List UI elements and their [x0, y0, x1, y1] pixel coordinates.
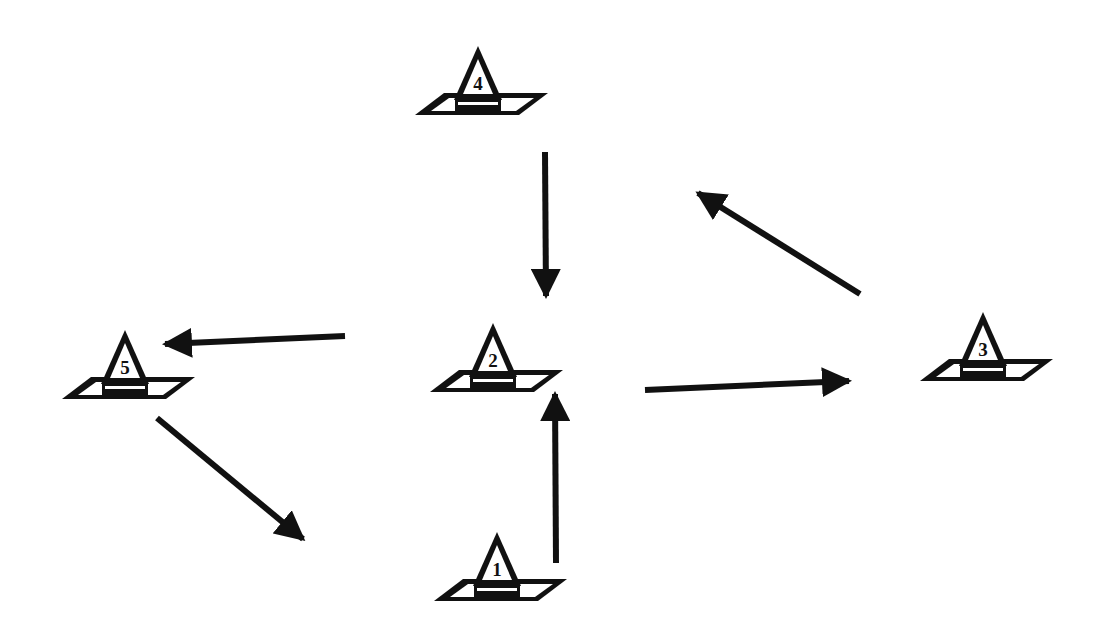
arrow-1-to-2 [555, 394, 556, 563]
cone-label-4: 4 [473, 73, 483, 94]
cone-5: 5 [62, 330, 195, 399]
cone-label-3: 3 [978, 339, 988, 360]
cone-drill-diagram: 4 2 3 5 1 [0, 0, 1107, 642]
arrow-2-to-3 [645, 381, 849, 390]
arrow-5-to-1 [157, 418, 303, 539]
cone-label-2: 2 [488, 350, 498, 371]
cone-1: 1 [434, 532, 567, 601]
arrow-3-to-4 [698, 193, 860, 294]
arrows-layer [157, 152, 860, 563]
cone-label-5: 5 [120, 357, 130, 378]
cone-4: 4 [415, 46, 548, 115]
cone-label-1: 1 [492, 559, 502, 580]
cone-2: 2 [430, 323, 563, 392]
arrow-2-to-5 [165, 336, 345, 344]
cone-3: 3 [920, 312, 1053, 381]
arrow-4-to-2 [545, 152, 546, 296]
